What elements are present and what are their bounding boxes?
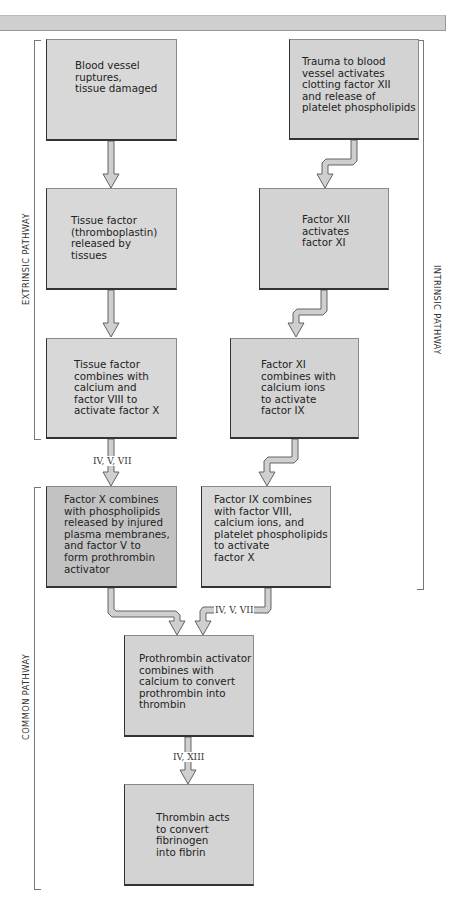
step-text: Blood vessel ruptures, tissue damaged (75, 60, 157, 95)
step-text: Factor XII activates factor XI (302, 214, 350, 249)
step-text: Factor XI combines with calcium ions to … (261, 359, 336, 417)
step-tissue-factor-released: Tissue factor (thromboplastin) released … (46, 188, 177, 290)
arrow-icon (103, 290, 119, 337)
step-text: Trauma to blood vessel activates clottin… (302, 56, 416, 114)
arrow-icon (288, 290, 327, 337)
step-factor-xi: Factor XI combines with calcium ions to … (230, 338, 359, 439)
step-factor-x-combines: Factor X combines with phospholipids rel… (46, 486, 177, 588)
arrow-icon (108, 588, 185, 635)
step-factor-xii: Factor XII activates factor XI (259, 188, 389, 290)
step-tissue-factor-combines: Tissue factor combines with calcium and … (46, 338, 177, 439)
factor-label-intrinsic: IV, V, VII (214, 605, 254, 615)
step-text: Factor X combines with phospholipids rel… (64, 494, 170, 575)
arrow-icon (259, 439, 298, 486)
factor-label-extrinsic: IV, V, VII (92, 456, 132, 466)
step-factor-ix-combines: Factor IX combines with factor VIII, cal… (201, 486, 331, 588)
step-trauma: Trauma to blood vessel activates clottin… (289, 39, 419, 140)
step-text: Thrombin acts to convert fibrinogen into… (156, 812, 230, 858)
step-text: Tissue factor combines with calcium and … (74, 359, 159, 417)
arrow-icon (317, 140, 357, 188)
step-blood-vessel-ruptures: Blood vessel ruptures, tissue damaged (46, 39, 177, 141)
step-text: Tissue factor (thromboplastin) released … (71, 215, 157, 261)
step-thrombin: Thrombin acts to convert fibrinogen into… (124, 784, 254, 886)
step-prothrombin-activator: Prothrombin activator combines with calc… (124, 635, 254, 737)
factor-label-thrombin: IV, XIII (172, 752, 205, 762)
arrow-icon (103, 141, 119, 188)
step-text: Prothrombin activator combines with calc… (139, 653, 251, 711)
step-text: Factor IX combines with factor VIII, cal… (214, 494, 328, 564)
